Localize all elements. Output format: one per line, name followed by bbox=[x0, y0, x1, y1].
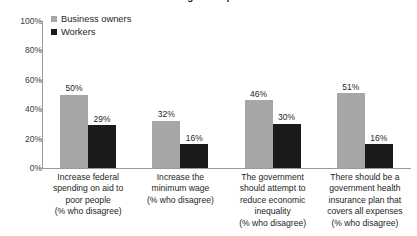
category-label-line: (% who disagree) bbox=[42, 206, 134, 217]
category-label-line: (% who disagree) bbox=[227, 218, 319, 229]
legend-swatch-icon bbox=[51, 29, 57, 35]
bar-value-label: 30% bbox=[278, 112, 295, 122]
bar-value-label: 16% bbox=[186, 133, 203, 143]
category-label: There should be agovernment healthinsura… bbox=[319, 172, 411, 229]
category-label-line: The government bbox=[227, 172, 319, 183]
bar-value-label: 16% bbox=[370, 133, 387, 143]
bar-group: 51%16% bbox=[319, 21, 411, 168]
bar-chart: ...the general public 0%20%40%60%80%100%… bbox=[0, 0, 417, 236]
bar-value-label: 50% bbox=[66, 83, 83, 93]
y-axis-tick-mark bbox=[39, 168, 43, 169]
bar-rect bbox=[273, 124, 301, 168]
bar-workers[interactable]: 29% bbox=[88, 21, 116, 168]
category-label-line: government health bbox=[319, 183, 411, 194]
category-label: Increase theminimum wage(% who disagree) bbox=[134, 172, 226, 206]
legend-item[interactable]: Business owners bbox=[51, 13, 131, 25]
bar-business-owners[interactable]: 51% bbox=[337, 21, 365, 168]
category-label-line: insurance plan that bbox=[319, 195, 411, 206]
x-axis-line bbox=[42, 168, 411, 169]
legend-label: Workers bbox=[61, 27, 95, 37]
bar-business-owners[interactable]: 32% bbox=[152, 21, 180, 168]
bar-value-label: 29% bbox=[94, 114, 111, 124]
bar-value-label: 51% bbox=[342, 82, 359, 92]
bar-group: 46%30% bbox=[227, 21, 319, 168]
bar-value-label: 46% bbox=[250, 89, 267, 99]
category-label-line: There should be a bbox=[319, 172, 411, 183]
category-label-line: spending on aid to bbox=[42, 183, 134, 194]
bar-rect bbox=[365, 144, 393, 168]
category-label: The governmentshould attempt toreduce ec… bbox=[227, 172, 319, 229]
bar-rect bbox=[245, 100, 273, 168]
bar-workers[interactable]: 16% bbox=[365, 21, 393, 168]
bar-business-owners[interactable]: 46% bbox=[245, 21, 273, 168]
legend-swatch-icon bbox=[51, 16, 57, 22]
legend-label: Business owners bbox=[61, 14, 131, 24]
legend: Business ownersWorkers bbox=[51, 13, 131, 39]
category-label-line: should attempt to bbox=[227, 183, 319, 194]
category-label-line: Increase the bbox=[134, 172, 226, 183]
bar-business-owners[interactable]: 50% bbox=[60, 21, 88, 168]
bar-group: 50%29% bbox=[42, 21, 134, 168]
bar-value-label: 32% bbox=[158, 109, 175, 119]
category-label-line: Increase federal bbox=[42, 172, 134, 183]
category-label-line: reduce economic bbox=[227, 195, 319, 206]
bar-workers[interactable]: 30% bbox=[273, 21, 301, 168]
category-label-line: (% who disagree) bbox=[134, 195, 226, 206]
category-label-line: minimum wage bbox=[134, 183, 226, 194]
category-label-line: inequality bbox=[227, 206, 319, 217]
bar-rect bbox=[60, 95, 88, 169]
legend-item[interactable]: Workers bbox=[51, 26, 131, 38]
bar-rect bbox=[88, 125, 116, 168]
bar-rect bbox=[152, 121, 180, 168]
bar-workers[interactable]: 16% bbox=[180, 21, 208, 168]
bar-group: 32%16% bbox=[134, 21, 226, 168]
plot-area: 50%29%32%16%46%30%51%16% bbox=[42, 21, 411, 168]
bar-rect bbox=[337, 93, 365, 168]
category-label-line: poor people bbox=[42, 195, 134, 206]
category-label-line: (% who disagree) bbox=[319, 218, 411, 229]
category-label: Increase federalspending on aid topoor p… bbox=[42, 172, 134, 218]
bar-rect bbox=[180, 144, 208, 168]
chart-title: ...the general public bbox=[0, 0, 417, 2]
category-label-line: covers all expenses bbox=[319, 206, 411, 217]
